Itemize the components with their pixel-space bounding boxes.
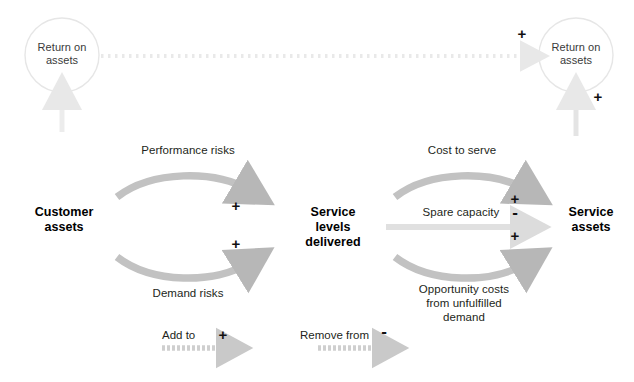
legend-add-to-label: Add to (162, 328, 195, 342)
legend-remove-from-label: Remove from (300, 328, 369, 342)
opportunity-costs-arc-arrow (395, 257, 527, 278)
demand-risks-sign: + (229, 236, 243, 251)
service-assets-label: Service assets (551, 205, 631, 235)
return-on-assets-right-label: Return on assets (536, 41, 616, 67)
service-levels-delivered-label: Service levels delivered (288, 205, 378, 250)
legend-remove-from-sign: - (377, 324, 391, 339)
spare-capacity-label: Spare capacity (406, 205, 516, 219)
demand-risks-arc-arrow (117, 257, 249, 278)
performance-risks-sign: + (229, 198, 243, 213)
demand-risks-label: Demand risks (128, 286, 248, 300)
spare-capacity-sign: - (508, 205, 522, 220)
performance-risks-arc-arrow (117, 176, 249, 197)
service-assets-to-roa-sign: + (591, 89, 605, 104)
customer-assets-label: Customer assets (14, 205, 114, 235)
diagram-canvas: Return on assets Return on assets Custom… (0, 0, 634, 382)
opportunity-costs-label: Opportunity costs from unfulfilled deman… (397, 282, 531, 324)
return-on-assets-left-label: Return on assets (22, 41, 102, 67)
opportunity-costs-sign: + (508, 228, 522, 243)
cost-to-serve-label: Cost to serve (406, 143, 518, 157)
legend-add-to-sign: + (216, 327, 230, 342)
performance-risks-label: Performance risks (123, 143, 253, 157)
roa-link-top-sign: + (515, 26, 529, 41)
